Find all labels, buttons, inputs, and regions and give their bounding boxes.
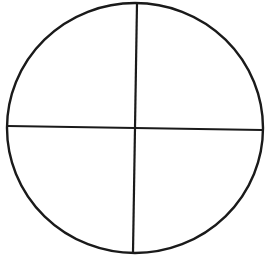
quadrant-circle-diagram bbox=[0, 0, 266, 258]
